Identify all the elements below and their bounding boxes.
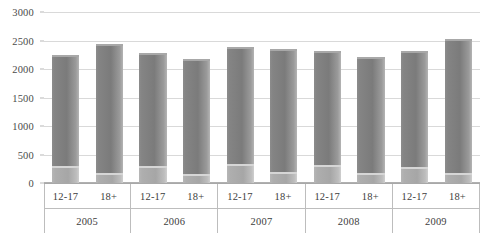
bar-segment-lower <box>96 173 123 183</box>
bar-segment-upper <box>357 57 384 173</box>
bar-chart: 3000 2500 2000 1500 1000 500 0 12-1718+2… <box>0 0 484 233</box>
bars-layer <box>44 12 480 183</box>
axis-subcategory-label-12-17: 12-17 <box>44 184 87 208</box>
axis-group-2009: 12-1718+2009 <box>393 184 480 233</box>
y-tick-label: 0 <box>29 178 34 189</box>
bar-segment-upper <box>314 51 341 164</box>
bar-segment-lower <box>445 173 472 183</box>
axis-group-2006: 12-1718+2006 <box>131 184 218 233</box>
bar-2006-12-17 <box>139 53 166 183</box>
bar-segment-upper <box>52 55 79 166</box>
y-tick-label: 500 <box>18 149 34 160</box>
y-tick-label: 3000 <box>12 7 34 18</box>
y-axis-labels: 3000 2500 2000 1500 1000 500 0 <box>0 0 40 233</box>
axis-group-label-2008: 2008 <box>306 209 392 233</box>
axis-subcategory-row: 12-1718+ <box>393 184 479 209</box>
axis-group-2008: 12-1718+2008 <box>306 184 393 233</box>
bar-segment-upper <box>96 44 123 173</box>
y-tick-label: 2500 <box>12 35 34 46</box>
bar-segment-upper <box>445 39 472 173</box>
axis-subcategory-label-12-17: 12-17 <box>306 184 349 208</box>
bar-2007-12-17 <box>227 47 254 183</box>
axis-subcategory-label-12-17: 12-17 <box>131 184 174 208</box>
bar-segment-upper <box>139 53 166 166</box>
y-tick-label: 2000 <box>12 64 34 75</box>
bar-segment-lower <box>357 173 384 183</box>
bar-segment-lower <box>270 172 297 183</box>
axis-subcategory-label-18plus: 18+ <box>436 184 479 208</box>
bar-segment-lower <box>183 174 210 183</box>
bar-segment-lower <box>52 166 79 183</box>
axis-subcategory-row: 12-1718+ <box>131 184 217 209</box>
category-axis: 12-1718+200512-1718+200612-1718+200712-1… <box>44 183 480 233</box>
bar-2005-18plus <box>96 44 123 183</box>
axis-group-label-2006: 2006 <box>131 209 217 233</box>
bar-segment-upper <box>401 51 428 167</box>
bar-2007-18plus <box>270 49 297 183</box>
bar-segment-upper <box>270 49 297 172</box>
axis-subcategory-row: 12-1718+ <box>306 184 392 209</box>
axis-group-label-2009: 2009 <box>393 209 479 233</box>
axis-subcategory-label-18plus: 18+ <box>174 184 217 208</box>
axis-subcategory-label-18plus: 18+ <box>87 184 130 208</box>
bar-segment-lower <box>227 164 254 183</box>
axis-subcategory-row: 12-1718+ <box>44 184 130 209</box>
bar-2005-12-17 <box>52 55 79 183</box>
axis-group-label-2005: 2005 <box>44 209 130 233</box>
bar-2009-12-17 <box>401 51 428 183</box>
bar-segment-upper <box>183 59 210 174</box>
bar-segment-upper <box>227 47 254 164</box>
bar-2008-18plus <box>357 57 384 183</box>
bar-segment-lower <box>401 167 428 183</box>
bar-2006-18plus <box>183 59 210 183</box>
axis-subcategory-label-12-17: 12-17 <box>393 184 436 208</box>
bar-segment-lower <box>314 165 341 183</box>
bar-2008-12-17 <box>314 51 341 183</box>
axis-subcategory-label-12-17: 12-17 <box>218 184 261 208</box>
axis-subcategory-label-18plus: 18+ <box>349 184 392 208</box>
y-tick-label: 1000 <box>12 121 34 132</box>
axis-group-label-2007: 2007 <box>218 209 304 233</box>
axis-group-2007: 12-1718+2007 <box>218 184 305 233</box>
bar-2009-18plus <box>445 39 472 183</box>
axis-group-2005: 12-1718+2005 <box>44 184 131 233</box>
axis-subcategory-row: 12-1718+ <box>218 184 304 209</box>
bar-segment-lower <box>139 166 166 183</box>
y-tick-label: 1500 <box>12 92 34 103</box>
axis-subcategory-label-18plus: 18+ <box>262 184 305 208</box>
